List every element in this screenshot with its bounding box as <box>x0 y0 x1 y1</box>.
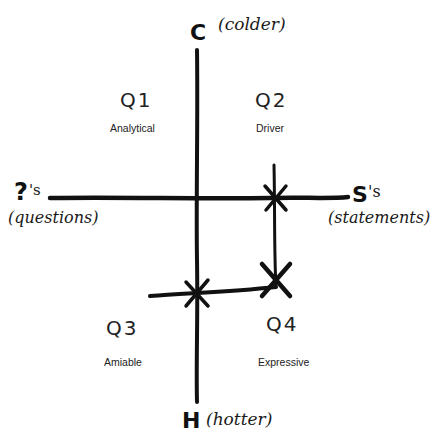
axis-right-suffix: 's <box>368 182 381 201</box>
quadrant-q3-label: Q3 <box>106 316 138 340</box>
lower-horizontal-line <box>150 287 276 296</box>
axis-bottom-note: (hotter) <box>206 409 272 429</box>
axis-top-note: (colder) <box>218 14 286 34</box>
vertical-axis-line <box>197 50 198 402</box>
right-vertical-line <box>274 165 276 287</box>
axis-right-note: (statements) <box>328 208 430 227</box>
quadrant-q4-label: Q4 <box>266 312 298 336</box>
axis-left-suffix: 's <box>29 181 41 199</box>
quadrant-diagram: C (colder) H (hotter) ? 's (questions) S… <box>0 0 434 443</box>
axis-right-letter: S <box>352 182 368 207</box>
axis-bottom-letter: H <box>182 408 200 433</box>
quadrant-q4-type: Expressive <box>258 356 309 368</box>
axis-top-letter: C <box>190 20 206 45</box>
axis-left-note: (questions) <box>8 208 98 227</box>
quadrant-q2-label: Q2 <box>255 88 287 112</box>
axis-left-letter: ? <box>14 178 28 206</box>
quadrant-q1-type: Analytical <box>110 122 155 134</box>
quadrant-q3-type: Amiable <box>104 356 142 368</box>
quadrant-q2-type: Driver <box>256 122 284 134</box>
horizontal-axis-line <box>50 197 348 198</box>
quadrant-q1-label: Q1 <box>120 88 152 112</box>
